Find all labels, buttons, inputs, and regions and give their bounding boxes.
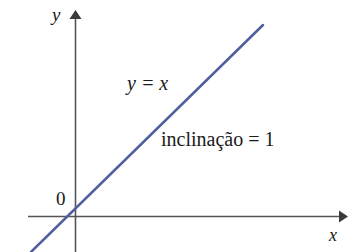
x-axis-label: x: [329, 226, 337, 244]
graph-figure: y x 0 y = x inclinação = 1: [0, 0, 360, 252]
origin-label: 0: [56, 189, 66, 208]
slope-label: inclinação = 1: [161, 129, 274, 149]
y-axis-arrow-icon: [70, 10, 82, 19]
x-axis-arrow-icon: [339, 211, 348, 223]
coordinate-plane-svg: [0, 0, 360, 252]
equation-label: y = x: [127, 73, 168, 93]
y-axis-label: y: [52, 5, 60, 24]
